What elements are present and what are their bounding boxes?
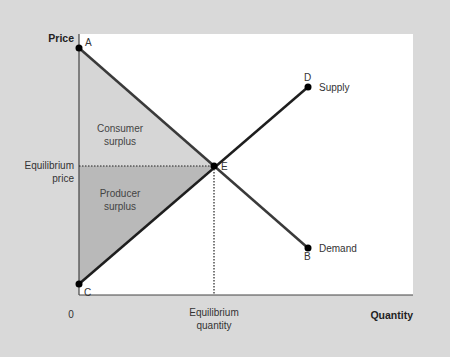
supply-label: Supply <box>319 82 350 93</box>
demand-label: Demand <box>319 243 357 254</box>
producer-surplus-label-line1: Producer <box>100 188 141 199</box>
equilibrium-price-label-line1: Equilibrium <box>25 160 74 171</box>
equilibrium-quantity-label-line2: quantity <box>196 320 231 331</box>
consumer-surplus-label-line2: surplus <box>104 136 136 147</box>
equilibrium-quantity-label-line1: Equilibrium <box>189 307 238 318</box>
point-d-marker <box>305 84 312 91</box>
point-c-marker <box>76 281 83 288</box>
producer-surplus-label-line2: surplus <box>104 201 136 212</box>
point-d-label: D <box>304 72 311 83</box>
consumer-surplus-label-line1: Consumer <box>97 123 144 134</box>
origin-label: 0 <box>68 309 74 320</box>
point-c-label: C <box>84 287 91 298</box>
supply-demand-diagram: A C D B E Supply Demand Consumer surplus… <box>0 0 450 357</box>
x-axis-label: Quantity <box>370 309 413 321</box>
point-a-marker <box>76 45 83 52</box>
point-e-label: E <box>221 161 228 172</box>
point-b-label: B <box>304 251 311 262</box>
point-a-label: A <box>85 37 92 48</box>
equilibrium-price-label-line2: price <box>52 173 74 184</box>
y-axis-label: Price <box>48 32 74 44</box>
point-e-marker <box>211 163 218 170</box>
